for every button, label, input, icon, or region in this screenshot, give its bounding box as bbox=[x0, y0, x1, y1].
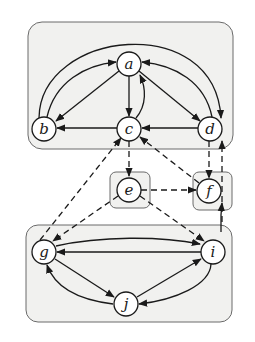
node-f: f bbox=[197, 179, 221, 203]
node-label: b bbox=[39, 120, 49, 138]
node-label: g bbox=[39, 243, 49, 261]
node-j: j bbox=[114, 292, 138, 316]
node-label: d bbox=[205, 120, 215, 138]
node-a: a bbox=[117, 52, 141, 76]
node-c: c bbox=[117, 117, 141, 141]
node-label: a bbox=[125, 55, 134, 73]
node-i: i bbox=[201, 240, 225, 264]
node-g: g bbox=[32, 240, 56, 264]
node-d: d bbox=[198, 117, 222, 141]
node-e: e bbox=[117, 178, 141, 202]
node-label: c bbox=[125, 120, 134, 138]
graph-diagram: a b c d e f g i j bbox=[0, 0, 255, 342]
node-label: i bbox=[211, 243, 216, 261]
node-b: b bbox=[32, 117, 56, 141]
node-label: e bbox=[125, 181, 134, 199]
